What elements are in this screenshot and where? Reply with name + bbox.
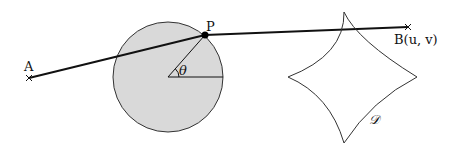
label-a: A — [23, 59, 34, 74]
label-p: P — [206, 19, 215, 34]
segment-p-b — [205, 27, 408, 35]
label-theta: θ — [179, 63, 187, 78]
diagram-svg: A P θ B(u, v) 𝒟 — [0, 0, 456, 151]
label-d: 𝒟 — [369, 112, 382, 127]
diagram-canvas: A P θ B(u, v) 𝒟 — [0, 0, 456, 151]
label-b: B(u, v) — [394, 32, 438, 47]
